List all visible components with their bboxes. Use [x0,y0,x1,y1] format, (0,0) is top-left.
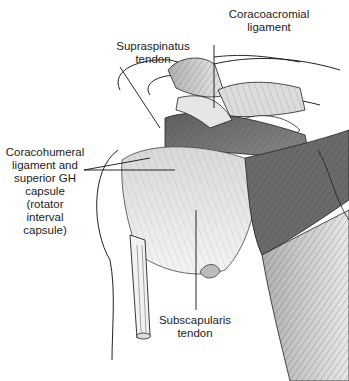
label-line: tendon [150,327,240,340]
label-line: Coracohumeral [2,146,88,159]
label-line: ligament [214,21,324,34]
label-line: ligament and [2,159,88,172]
label-line: capsule [2,185,88,198]
label-line: tendon [108,53,198,66]
label-line: Supraspinatus [108,40,198,53]
subscapularis-muscle [245,130,349,381]
label-line: interval [2,211,88,224]
anatomy-figure: Coracoacromial ligament Supraspinatus te… [0,0,349,381]
label-line: (rotator [2,198,88,211]
label-line: Subscapularis [150,314,240,327]
label-coracohumeral-ligament: Coracohumeral ligament and superior GH c… [2,146,88,237]
label-coracoacromial-ligament: Coracoacromial ligament [214,8,324,34]
label-line: capsule) [2,224,88,237]
label-line: Coracoacromial [214,8,324,21]
label-line: superior GH [2,172,88,185]
label-supraspinatus-tendon: Supraspinatus tendon [108,40,198,66]
label-subscapularis-tendon: Subscapularis tendon [150,314,240,340]
